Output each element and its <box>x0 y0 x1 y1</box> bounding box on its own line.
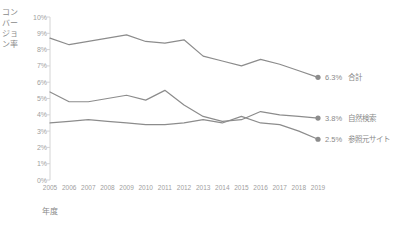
y-axis-tick-label: 7% <box>25 62 47 69</box>
series-end-label: 2.5%参照元サイト <box>325 135 390 144</box>
series-lines <box>50 35 318 139</box>
series-line <box>50 90 318 121</box>
y-axis-tick-label: 5% <box>25 95 47 102</box>
y-axis-tick-label: 10% <box>25 14 47 21</box>
series-end-label: 6.3%合計 <box>325 73 362 82</box>
y-axis-title: コンバージョン率 <box>2 8 18 50</box>
series-line <box>50 35 318 77</box>
y-axis-tick-label: 1% <box>25 160 47 167</box>
series-end-label: 3.8%自然検索 <box>325 114 376 123</box>
conversion-rate-line-chart: コンバージョン率 10%9%8%7%6%5%4%3%2%1%0% 2005200… <box>0 0 413 230</box>
series-end-value: 2.5% <box>325 135 344 144</box>
series-line <box>50 116 318 139</box>
y-axis-tick-label: 2% <box>25 144 47 151</box>
series-end-marker <box>315 115 320 120</box>
series-end-value: 6.3% <box>325 73 344 82</box>
series-name-label: 参照元サイト <box>348 135 390 144</box>
x-axis-tick-labels: 2005200620072008200920102011201220132014… <box>50 184 318 196</box>
y-axis-tick-label: 3% <box>25 128 47 135</box>
y-axis-tick-label: 4% <box>25 111 47 118</box>
y-axis-tick-label: 9% <box>25 30 47 37</box>
series-name-label: 合計 <box>348 73 362 82</box>
series-end-marker <box>315 137 320 142</box>
y-axis-tick-label: 6% <box>25 79 47 86</box>
y-axis-tick-labels: 10%9%8%7%6%5%4%3%2%1%0% <box>22 17 47 180</box>
series-end-value: 3.8% <box>325 114 344 123</box>
series-end-marker <box>315 75 320 80</box>
y-axis-tick-label: 8% <box>25 46 47 53</box>
series-end-markers <box>315 75 320 142</box>
y-axis-tick-label: 0% <box>25 177 47 184</box>
series-name-label: 自然検索 <box>348 114 376 123</box>
plot-svg <box>50 17 318 180</box>
plot-area <box>50 17 318 180</box>
x-axis-title: 年度 <box>42 205 58 216</box>
x-axis-tick-label: 2019 <box>305 184 331 192</box>
